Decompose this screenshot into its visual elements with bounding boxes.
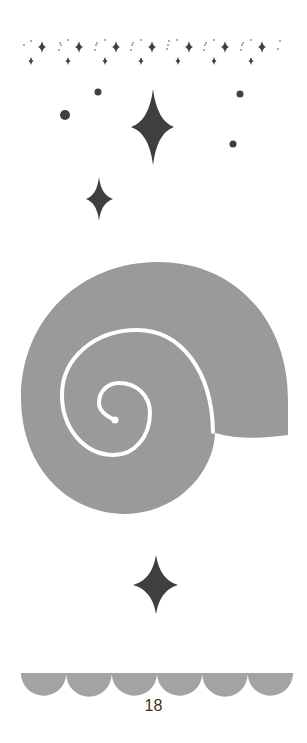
- dot-icon: [60, 110, 70, 120]
- bottom-star-icon: [133, 555, 178, 614]
- dot-icon: [230, 141, 237, 148]
- nautilus-shell-illustration: [21, 262, 288, 514]
- dot-icon: [237, 91, 244, 98]
- big-star-icon: [131, 89, 174, 165]
- sparkle-cluster: [0, 0, 307, 743]
- page-number: 18: [0, 697, 307, 715]
- spiral-center-dot: [112, 417, 119, 424]
- scalloped-border-bottom: [21, 673, 293, 697]
- dot-icon: [95, 89, 102, 96]
- small-star-icon: [86, 177, 113, 221]
